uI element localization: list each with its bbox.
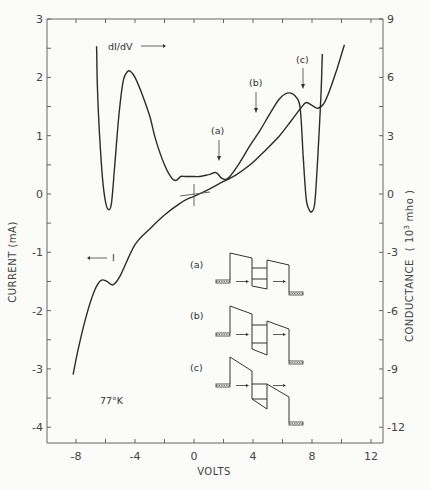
y2-title-unit-close: mho ) bbox=[404, 190, 415, 222]
y2-tick-label: -9 bbox=[387, 363, 398, 376]
barrier-profile bbox=[230, 357, 289, 422]
temperature-label: 77°K bbox=[100, 395, 124, 406]
left-electrode bbox=[216, 384, 230, 387]
didv-label: dI/dV bbox=[108, 41, 133, 52]
right-electrode bbox=[289, 422, 303, 425]
y2-tick-label: 9 bbox=[387, 13, 394, 26]
marker-a-label: (a) bbox=[211, 125, 224, 136]
tunnel-arrowhead-icon bbox=[246, 384, 249, 387]
y2-tick-label: 0 bbox=[387, 188, 394, 201]
y2-tick-label: -3 bbox=[387, 246, 398, 259]
inset-c-label: (c) bbox=[190, 362, 203, 373]
current-curve bbox=[73, 45, 344, 375]
marker-c-label: (c) bbox=[296, 54, 309, 65]
y2-tick-label: 3 bbox=[387, 130, 394, 143]
tunnel-arrowhead-icon bbox=[283, 333, 286, 336]
tunnel-arrowhead-icon bbox=[246, 280, 249, 283]
marker-b-label: (b) bbox=[249, 77, 262, 88]
x-tick-label: 0 bbox=[191, 450, 198, 463]
tick-labels-group: -8-4048123210-1-2-3-49630-3-6-9-12 bbox=[32, 13, 405, 463]
barrier-profile bbox=[230, 306, 289, 361]
x-tick-label: 4 bbox=[250, 450, 257, 463]
y2-title-exp: 3 bbox=[403, 224, 411, 229]
y-tick-label: -4 bbox=[32, 421, 43, 434]
y2-tick-label: -12 bbox=[387, 421, 405, 434]
iv-conductance-chart: -8-4048123210-1-2-3-49630-3-6-9-12 VOLTS… bbox=[0, 0, 430, 490]
y-tick-label: -1 bbox=[32, 246, 43, 259]
y2-tick-label: -6 bbox=[387, 305, 398, 318]
y2-title-unit-open: ( 10 bbox=[404, 229, 415, 251]
y2-tick-label: 6 bbox=[387, 71, 394, 84]
marker-a-arrowhead-icon bbox=[217, 156, 221, 161]
y-tick-label: -2 bbox=[32, 305, 43, 318]
x-tick-label: 8 bbox=[309, 450, 316, 463]
y-tick-label: 1 bbox=[36, 130, 43, 143]
y2-axis-title: CONDUCTANCE( 103mho ) bbox=[403, 190, 415, 342]
y-tick-label: 0 bbox=[36, 188, 43, 201]
tunnel-arrowhead-icon bbox=[283, 384, 286, 387]
inset-b-label: (b) bbox=[190, 310, 203, 321]
x-tick-label: -8 bbox=[71, 450, 82, 463]
marker-c-arrowhead-icon bbox=[301, 84, 305, 89]
i-arrowhead-icon bbox=[87, 256, 90, 260]
tunnel-arrowhead-icon bbox=[246, 333, 249, 336]
didv-arrowhead-icon bbox=[163, 44, 166, 48]
band-diagram-b bbox=[216, 306, 303, 364]
left-electrode bbox=[216, 280, 230, 283]
right-electrode bbox=[289, 361, 303, 364]
conductance-curve bbox=[97, 46, 323, 212]
x-tick-label: 12 bbox=[364, 450, 378, 463]
y2-title-main: CONDUCTANCE bbox=[404, 259, 415, 342]
inset-a-label: (a) bbox=[190, 259, 203, 270]
left-electrode bbox=[216, 333, 230, 336]
barrier-profile bbox=[230, 253, 289, 292]
band-diagram-a bbox=[216, 253, 303, 295]
svg-text:CONDUCTANCE( 103mho ): CONDUCTANCE( 103mho ) bbox=[403, 190, 415, 342]
y-tick-label: 3 bbox=[36, 13, 43, 26]
i-label: I bbox=[112, 252, 115, 263]
tunnel-arrowhead-icon bbox=[283, 280, 286, 283]
y-tick-label: -3 bbox=[32, 363, 43, 376]
y-axis-title: CURRENT (mA) bbox=[7, 221, 18, 303]
marker-b-arrowhead-icon bbox=[254, 108, 258, 113]
y-tick-label: 2 bbox=[36, 71, 43, 84]
x-tick-label: -4 bbox=[130, 450, 141, 463]
right-electrode bbox=[289, 292, 303, 295]
band-diagram-c bbox=[216, 357, 303, 425]
x-axis-title: VOLTS bbox=[197, 466, 231, 477]
band-diagram-insets bbox=[216, 253, 303, 425]
series-group bbox=[73, 45, 344, 375]
